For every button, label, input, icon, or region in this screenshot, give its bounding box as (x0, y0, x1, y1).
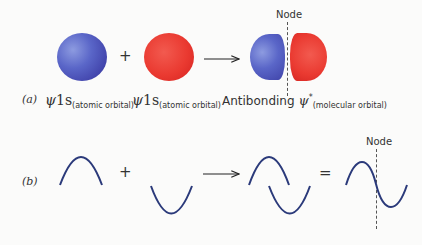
overlap-positive-wave (249, 157, 289, 185)
overlap-negative-wave (269, 186, 310, 214)
diagram-graphics (0, 0, 422, 245)
antibonding-sine-wave (346, 162, 407, 207)
positive-half-wave (60, 157, 102, 185)
negative-half-wave (151, 186, 192, 214)
